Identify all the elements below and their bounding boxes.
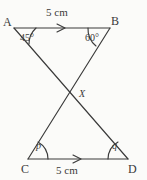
angle-label-c: p [36, 141, 41, 151]
angle-label-d: q [112, 141, 117, 151]
vertex-label-d: D [128, 163, 137, 175]
angle-label-a: 45° [20, 33, 34, 43]
length-label-cd: 5 cm [56, 165, 78, 176]
geometry-figure: A B C D X 5 cm 5 cm 45° 60° p q [0, 0, 147, 180]
angle-label-b: 60° [85, 33, 99, 43]
vertex-label-b: B [111, 15, 119, 27]
intersection-point-x: X [79, 89, 85, 99]
length-label-ab: 5 cm [46, 7, 68, 18]
figure-canvas [0, 0, 147, 180]
segment-ad [14, 28, 128, 159]
vertex-label-c: C [21, 163, 29, 175]
vertex-label-a: A [3, 16, 12, 28]
